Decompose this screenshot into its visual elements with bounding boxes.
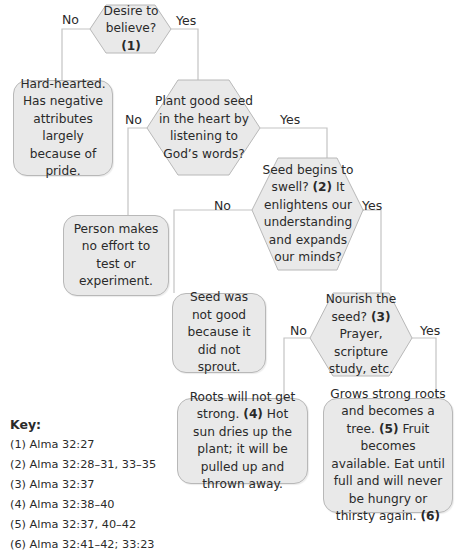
key-title: Key: bbox=[10, 415, 156, 435]
key-legend: Key: (1) Alma 32:27 (2) Alma 32:28–31, 3… bbox=[10, 415, 156, 554]
key-item: (6) Alma 32:41–42; 33:23 bbox=[10, 535, 156, 554]
key-item: (5) Alma 32:37, 40–42 bbox=[10, 515, 156, 535]
decision-4-text: Nourish the seed? (3) Prayer, scripture … bbox=[316, 295, 406, 375]
key-item: (3) Alma 32:37 bbox=[10, 475, 156, 495]
branch-label-yes-3: Yes bbox=[362, 198, 382, 213]
branch-label-yes-1: Yes bbox=[176, 13, 196, 28]
outcome-box-not-good-seed: Seed was not good because it did not spr… bbox=[172, 293, 266, 373]
branch-label-yes-4: Yes bbox=[420, 323, 440, 338]
decision-1-text: Desire to believe? (1) bbox=[100, 5, 162, 53]
outcome-box-no-effort: Person makes no effort to test or experi… bbox=[63, 215, 169, 296]
outcome-box-grows-tree: Grows strong roots and becomes a tree. (… bbox=[323, 398, 453, 513]
branch-label-no-1: No bbox=[62, 12, 79, 27]
key-item: (1) Alma 32:27 bbox=[10, 435, 156, 455]
decision-3-text: Seed begins to swell? (2) It enlightens … bbox=[258, 160, 358, 268]
branch-label-no-4: No bbox=[290, 323, 307, 338]
outcome-box-hard-hearted: Hard-hearted. Has negative attributes la… bbox=[13, 80, 113, 176]
key-item: (2) Alma 32:28–31, 33–35 bbox=[10, 455, 156, 475]
outcome-box-roots-not-strong: Roots will not get strong. (4) Hot sun d… bbox=[177, 398, 308, 484]
decision-2-text: Plant good seed in the heart by listenin… bbox=[155, 82, 253, 174]
branch-label-yes-2: Yes bbox=[280, 112, 300, 127]
branch-label-no-2: No bbox=[125, 112, 142, 127]
branch-label-no-3: No bbox=[214, 198, 231, 213]
key-item: (4) Alma 32:38–40 bbox=[10, 495, 156, 515]
